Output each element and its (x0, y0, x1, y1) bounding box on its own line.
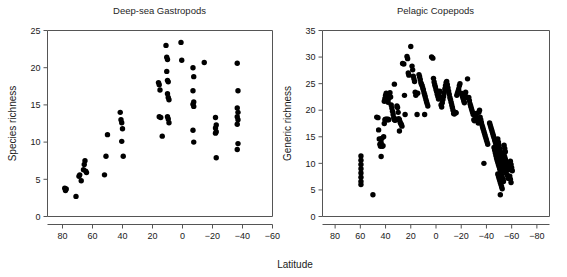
y-tick-label-right: 35 (305, 26, 315, 36)
x-tick-label-right: 60 (355, 231, 365, 241)
data-point (166, 79, 171, 84)
data-point (121, 154, 126, 159)
data-point (235, 147, 240, 152)
x-tick-label-right: −60 (504, 231, 519, 241)
data-point (410, 67, 415, 72)
data-point (157, 87, 162, 92)
x-tick-label-left: −40 (235, 231, 250, 241)
x-tick-label-right: 80 (330, 231, 340, 241)
data-point (415, 91, 420, 96)
y-axis-label-right: Generic richness (282, 86, 293, 161)
latitudinal-richness-figure: Deep-sea Gastropods 0510152025806040200−… (0, 0, 567, 277)
data-point (381, 134, 386, 139)
data-point (157, 82, 162, 87)
data-point (77, 172, 82, 177)
y-tick-label-right: 5 (310, 185, 315, 195)
x-tick-label-left: 60 (87, 231, 97, 241)
data-point (163, 43, 168, 48)
x-tick-label-left: −20 (205, 231, 220, 241)
data-point (166, 97, 171, 102)
panel-pelagic-copepods: Pelagic Copepods 05101520253035806040200… (282, 5, 550, 241)
datapoints-left (62, 40, 241, 199)
x-tick-label-left: 0 (180, 231, 185, 241)
data-point (395, 105, 400, 110)
y-tick-label-left: 25 (30, 26, 40, 36)
data-point (235, 122, 240, 127)
data-point (462, 100, 467, 105)
data-point (202, 60, 207, 65)
data-point (190, 128, 195, 133)
data-point (191, 104, 196, 109)
data-point (102, 172, 107, 177)
panel-title-right: Pelagic Copepods (397, 5, 474, 16)
data-point (495, 136, 500, 141)
x-tick-label-right: −20 (454, 231, 469, 241)
data-point (120, 126, 125, 131)
datapoints-right (358, 44, 515, 198)
x-tick-label-right: −80 (529, 231, 544, 241)
data-point (190, 88, 195, 93)
data-point (84, 170, 89, 175)
y-tick-label-right: 20 (305, 105, 315, 115)
x-tick-label-left: 40 (117, 231, 127, 241)
data-point (375, 115, 380, 120)
data-point (412, 79, 417, 84)
x-tick-label-right: −40 (479, 231, 494, 241)
y-tick-label-left: 5 (35, 175, 40, 185)
data-point (392, 81, 397, 86)
data-point (402, 112, 407, 117)
plot-frame-right (323, 31, 550, 217)
x-tick-label-right: 40 (381, 231, 391, 241)
data-point (399, 123, 404, 128)
data-point (401, 61, 406, 66)
y-tick-label-right: 25 (305, 79, 315, 89)
data-point (158, 115, 163, 120)
data-point (235, 88, 240, 93)
tick-group-right: 05101520253035806040200−20−40−60−80 (305, 26, 549, 241)
data-point (191, 74, 196, 79)
data-point (64, 186, 69, 191)
x-tick-label-left: 80 (57, 231, 67, 241)
data-point (386, 117, 391, 122)
data-point (190, 65, 195, 70)
data-point (453, 110, 458, 115)
panel-deep-sea-gastropods: Deep-sea Gastropods 0510152025806040200−… (7, 5, 280, 241)
data-point (118, 110, 123, 115)
data-point (402, 93, 407, 98)
y-tick-label-left: 20 (30, 63, 40, 73)
data-point (510, 168, 515, 173)
data-point (500, 153, 505, 158)
data-point (388, 94, 393, 99)
data-point (477, 108, 482, 113)
data-point (178, 40, 183, 45)
data-point (405, 56, 410, 61)
data-point (425, 103, 430, 108)
data-point (235, 61, 240, 66)
x-tick-label-left: −60 (265, 231, 280, 241)
data-point (370, 192, 375, 197)
y-tick-label-right: 10 (305, 159, 315, 169)
data-point (103, 154, 108, 159)
y-tick-label-left: 0 (35, 212, 40, 222)
data-point (213, 115, 218, 120)
data-point (485, 142, 490, 147)
data-point (465, 76, 470, 81)
data-point (105, 132, 110, 137)
data-point (408, 44, 413, 49)
data-point (481, 161, 486, 166)
data-point (498, 192, 503, 197)
data-point (191, 139, 196, 144)
data-point (397, 128, 402, 133)
data-point (463, 89, 468, 94)
data-point (395, 110, 400, 115)
y-tick-label-left: 15 (30, 100, 40, 110)
data-point (358, 182, 363, 187)
shared-x-axis-label: Latitude (277, 259, 313, 270)
data-point (165, 57, 170, 62)
y-tick-label-right: 0 (310, 212, 315, 222)
data-point (430, 55, 435, 60)
x-tick-label-left: 20 (147, 231, 157, 241)
tick-group-left: 0510152025806040200−20−40−60 (30, 26, 280, 241)
x-tick-label-right: 20 (406, 231, 416, 241)
data-point (119, 139, 124, 144)
